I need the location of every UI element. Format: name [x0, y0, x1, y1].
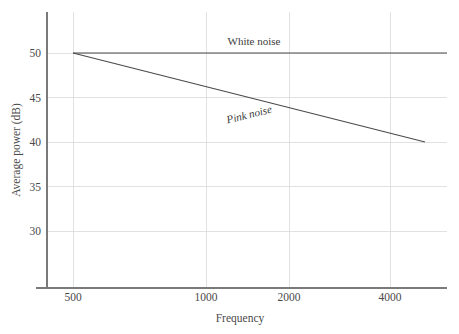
x-axis-title: Frequency — [216, 312, 265, 325]
horizontal-gridlines — [47, 53, 447, 231]
x-tick-label-2000: 2000 — [278, 291, 301, 303]
y-tick-labels: 50 45 40 35 30 — [30, 47, 42, 237]
y-tick-label-50: 50 — [30, 47, 42, 59]
x-tick-labels: 500 1000 2000 4000 — [64, 291, 401, 303]
chart-figure: 50 45 40 35 30 500 1000 2000 4000 White … — [0, 0, 459, 334]
y-tick-label-35: 35 — [30, 181, 42, 193]
x-tick-label-1000: 1000 — [195, 291, 218, 303]
pink-noise-label: Pink noise — [224, 103, 273, 126]
white-noise-label: White noise — [228, 35, 281, 47]
line-chart-canvas: 50 45 40 35 30 500 1000 2000 4000 White … — [0, 0, 459, 334]
y-tick-label-30: 30 — [30, 225, 42, 237]
x-tick-label-4000: 4000 — [379, 291, 402, 303]
y-tick-label-45: 45 — [30, 92, 42, 104]
y-tick-label-40: 40 — [30, 136, 42, 148]
x-tick-label-500: 500 — [64, 291, 82, 303]
y-axis-title: Average power (dB) — [10, 103, 23, 197]
